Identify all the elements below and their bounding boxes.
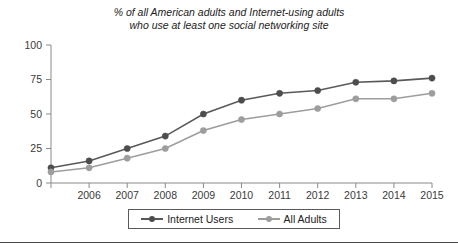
legend-item-all-adults: All Adults [258, 213, 327, 225]
series-layer [48, 75, 435, 175]
y-tick-label: 75 [30, 73, 42, 85]
x-tick-label: 2006 [77, 189, 101, 201]
y-axis: 0255075100 [24, 39, 51, 189]
x-tick-label: 2012 [306, 189, 330, 201]
data-point [391, 78, 397, 84]
legend-label-all-adults: All Adults [284, 213, 327, 225]
data-point [238, 97, 244, 103]
data-point [315, 87, 321, 93]
data-point [86, 158, 92, 164]
chart-legend: Internet Users All Adults [128, 209, 340, 229]
legend-marker-icon-all-adults [258, 215, 280, 223]
data-point [200, 127, 206, 133]
data-point [124, 145, 130, 151]
data-point [353, 96, 359, 102]
chart-figure: % of all American adults and Internet-us… [0, 0, 458, 251]
data-point [429, 90, 435, 96]
data-point [48, 169, 54, 175]
x-tick-label: 2008 [154, 189, 178, 201]
legend-marker-icon-internet-users [141, 215, 163, 223]
x-tick-label: 2007 [116, 189, 140, 201]
data-point [86, 165, 92, 171]
y-tick-label: 0 [36, 177, 42, 189]
data-point [162, 145, 168, 151]
data-point [315, 105, 321, 111]
data-point [277, 111, 283, 117]
legend-label-internet-users: Internet Users [167, 213, 233, 225]
footer-divider [0, 242, 458, 243]
x-tick-label: 2009 [192, 189, 216, 201]
x-tick-label: 2015 [420, 189, 444, 201]
legend-item-internet-users: Internet Users [141, 213, 233, 225]
x-tick-label: 2014 [382, 189, 406, 201]
y-tick-label: 50 [30, 108, 42, 120]
data-point [277, 90, 283, 96]
x-axis: 2006200720082009201020112012201320142015 [51, 183, 444, 201]
x-tick-label: 2011 [268, 189, 291, 201]
data-point [429, 75, 435, 81]
x-tick-label: 2010 [230, 189, 254, 201]
y-tick-label: 25 [30, 142, 42, 154]
data-point [124, 155, 130, 161]
series-line-1 [51, 78, 432, 168]
x-tick-label: 2013 [344, 189, 368, 201]
data-point [200, 111, 206, 117]
data-point [391, 96, 397, 102]
data-point [353, 79, 359, 85]
y-tick-label: 100 [24, 39, 42, 51]
data-point [238, 116, 244, 122]
series-line-2 [51, 93, 432, 172]
data-point [162, 133, 168, 139]
